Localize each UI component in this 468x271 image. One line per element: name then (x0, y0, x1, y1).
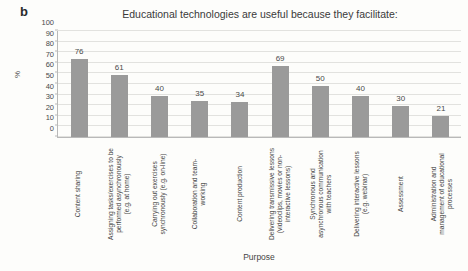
bar-value-label: 61 (115, 63, 124, 72)
y-tick-mark (55, 125, 58, 126)
x-category-label: Administration and management of educati… (430, 142, 454, 246)
bar-value-label: 76 (75, 47, 84, 56)
x-category-slot: Content production (220, 140, 260, 248)
bar-slot: 35 (180, 31, 220, 137)
x-category-slot: Collaboration and team- working (179, 140, 219, 248)
x-category-label: Content production (236, 142, 244, 246)
panel-letter-label: b (20, 4, 28, 19)
y-tick-label: 90 (46, 28, 54, 37)
bar-slot: 50 (300, 31, 340, 137)
bar-slot: 61 (99, 31, 139, 137)
y-tick-label: 0 (50, 124, 54, 133)
y-tick-mark (55, 72, 58, 73)
y-tick-label: 50 (46, 71, 54, 80)
bar-slot: 34 (220, 31, 260, 137)
y-tick-label: 60 (46, 60, 54, 69)
bar-value-label: 34 (235, 90, 244, 99)
x-category-slot: Administration and management of educati… (422, 140, 462, 248)
bar[interactable]: 21 (432, 116, 449, 137)
bar[interactable]: 69 (272, 66, 289, 137)
bar-slot: 30 (381, 31, 421, 137)
bar-slot: 69 (260, 31, 300, 137)
x-category-slot: Carrying out exercises synchronously (e.… (139, 140, 179, 248)
x-category-label: Assigning tasks/exercises to be performe… (107, 142, 131, 246)
y-tick-mark (55, 30, 58, 31)
y-tick-mark (55, 83, 58, 84)
x-category-label: Delivering interactive lessons (e.g. web… (353, 142, 369, 246)
x-category-slot: Delivering interactive lessons (e.g. web… (341, 140, 381, 248)
bar-slot: 76 (59, 31, 99, 137)
y-tick-mark (55, 40, 58, 41)
x-category-slot: Content sharing (58, 140, 98, 248)
bar-value-label: 40 (356, 84, 365, 93)
bar-value-label: 30 (396, 94, 405, 103)
bar-value-label: 21 (436, 104, 445, 113)
y-tick-mark (55, 104, 58, 105)
bar-value-label: 40 (155, 84, 164, 93)
y-tick-mark (55, 136, 58, 137)
x-category-label: Delivering transmissive lessons (videocl… (268, 142, 292, 246)
chart-title: Educational technologies are useful beca… (62, 8, 458, 20)
bar-series: 76614035346950403021 (59, 31, 461, 137)
y-tick-mark (55, 93, 58, 94)
y-tick-label: 70 (46, 49, 54, 58)
y-tick-mark (55, 61, 58, 62)
y-tick-label: 10 (46, 113, 54, 122)
x-category-slot: Synchronous and asynchronous communicati… (300, 140, 340, 248)
bar-slot: 40 (340, 31, 380, 137)
y-tick-label: 40 (46, 81, 54, 90)
plot-area: 0102030405060708090100 76614035346950403… (57, 31, 461, 138)
y-tick-label: 20 (46, 102, 54, 111)
x-category-slot: Assessment (381, 140, 421, 248)
bar[interactable]: 76 (71, 59, 88, 137)
x-category-label: Collaboration and team- working (191, 142, 207, 246)
bar[interactable]: 35 (191, 101, 208, 137)
y-axis-title: % (13, 71, 22, 78)
bar-slot: 21 (421, 31, 461, 137)
bar[interactable]: 50 (312, 86, 329, 137)
x-category-slot: Delivering transmissive lessons (videocl… (260, 140, 300, 248)
bar[interactable]: 40 (352, 96, 369, 137)
bar[interactable]: 30 (392, 106, 409, 137)
x-category-label: Content sharing (74, 142, 82, 246)
x-axis-category-labels: Content sharingAssigning tasks/exercises… (58, 140, 462, 248)
y-tick-mark (55, 114, 58, 115)
x-category-label: Synchronous and asynchronous communicati… (309, 142, 333, 246)
figure-panel-b: b Educational technologies are useful be… (0, 0, 468, 271)
y-tick-label: 100 (41, 18, 54, 27)
bar-value-label: 69 (276, 54, 285, 63)
bar-slot: 40 (139, 31, 179, 137)
x-category-label: Assessment (397, 142, 405, 246)
bar[interactable]: 40 (151, 96, 168, 137)
x-category-label: Carrying out exercises synchronously (e.… (151, 142, 167, 246)
bar-value-label: 35 (195, 89, 204, 98)
y-tick-label: 80 (46, 39, 54, 48)
x-category-slot: Assigning tasks/exercises to be performe… (98, 140, 138, 248)
y-tick-mark (55, 51, 58, 52)
y-tick-label: 30 (46, 92, 54, 101)
x-axis-title: Purpose (57, 252, 461, 262)
bar[interactable]: 34 (231, 102, 248, 137)
bar[interactable]: 61 (111, 75, 128, 137)
bar-value-label: 50 (316, 74, 325, 83)
